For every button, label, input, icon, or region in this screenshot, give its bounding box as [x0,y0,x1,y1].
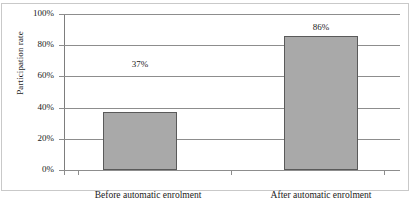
x-tick-start [64,170,65,175]
y-tick-100 [59,14,64,15]
bar-value-label-before: 37% [103,59,177,69]
y-tick-60 [59,76,64,77]
y-axis-line [64,14,65,170]
y-tick-label-60: 60% [8,70,54,80]
y-tick-40 [59,108,64,109]
y-tick-label-20: 20% [8,133,54,143]
y-tick-80 [59,45,64,46]
x-category-label-after: After automatic enrolment [223,190,412,198]
x-tick-divider [231,170,232,175]
bar-before-automatic-enrolment[interactable] [103,112,177,170]
y-tick-label-40: 40% [8,102,54,112]
gridline-0 [64,170,400,171]
bar-chart-figure: Participation rate 100% 80% 60% 40% 20% … [0,0,412,198]
y-tick-label-80: 80% [8,39,54,49]
bar-after-automatic-enrolment[interactable] [284,36,358,170]
gridline-100 [64,14,400,15]
plot-area: 100% 80% 60% 40% 20% 0% 37% 86% Before a… [64,14,400,170]
x-tick-cat-1-left [78,170,79,175]
x-tick-cat-2-right [384,170,385,175]
y-tick-label-100: 100% [8,8,54,18]
y-tick-20 [59,139,64,140]
bar-value-label-after: 86% [284,22,358,32]
y-tick-label-0: 0% [8,164,54,174]
x-category-label-before: Before automatic enrolment [50,190,246,198]
